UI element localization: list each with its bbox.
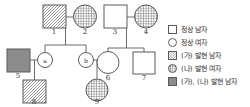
individual-2-label: 2 bbox=[78, 29, 92, 36]
legend-item-trait-a-male: (가) 발현 남자 bbox=[168, 49, 250, 62]
legend-item-normal-female: 정상 여자 bbox=[168, 36, 250, 49]
individual-3-symbol bbox=[104, 5, 127, 28]
legend-item-trait-ab-male: (가), (나) 발현 남자 bbox=[168, 75, 250, 88]
pedigree-figure: 1 2 3 4 5 6 7 8 9 a b 정상 남자 정상 여자 bbox=[0, 0, 250, 107]
individual-a-label: a bbox=[38, 57, 52, 64]
individual-5-label: 5 bbox=[11, 73, 25, 80]
legend-label: (가) 발현 남자 bbox=[181, 52, 221, 60]
individual-7-label: 7 bbox=[137, 75, 151, 82]
legend-item-trait-b-female: (나) 발현 여자 bbox=[168, 62, 250, 75]
individual-6-label: 6 bbox=[101, 75, 115, 82]
individual-1-symbol bbox=[43, 5, 66, 28]
solid-square-icon bbox=[168, 77, 177, 86]
legend-label: 정상 여자 bbox=[181, 39, 207, 47]
legend-label: 정상 남자 bbox=[181, 26, 207, 34]
legend: 정상 남자 정상 여자 (가) 발현 남자 bbox=[168, 23, 250, 88]
individual-4-label: 4 bbox=[139, 29, 153, 36]
individual-2-symbol bbox=[74, 5, 97, 28]
individual-4-symbol bbox=[135, 5, 158, 28]
pedigree-diagram: 1 2 3 4 5 6 7 8 9 a b bbox=[0, 0, 168, 107]
individual-5-symbol bbox=[7, 49, 30, 72]
hatched-square-icon bbox=[168, 51, 177, 60]
legend-item-normal-male: 정상 남자 bbox=[168, 23, 250, 36]
legend-label: (가), (나) 발현 남자 bbox=[181, 78, 237, 86]
empty-circle-icon bbox=[168, 38, 177, 47]
legend-label: (나) 발현 여자 bbox=[181, 65, 221, 73]
empty-square-icon bbox=[168, 25, 177, 34]
individual-7-symbol bbox=[133, 52, 155, 74]
individual-1-label: 1 bbox=[47, 29, 61, 36]
crosshatch-circle-icon bbox=[168, 64, 177, 73]
individual-8-label: 8 bbox=[27, 99, 41, 106]
individual-6-symbol bbox=[97, 52, 119, 74]
individual-9-label: 9 bbox=[90, 99, 104, 106]
individual-3-label: 3 bbox=[108, 29, 122, 36]
individual-b-label: b bbox=[79, 57, 93, 64]
